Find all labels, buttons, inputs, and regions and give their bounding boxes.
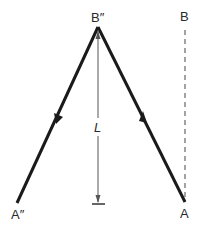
label-apex: B″	[91, 10, 105, 25]
label-length: L	[94, 120, 101, 135]
label-top-right: B	[180, 9, 189, 24]
arrow-bottom-icon	[96, 195, 101, 203]
diagram-canvas: B″ B A″ A L	[0, 0, 198, 227]
label-bottom-left: A″	[11, 207, 25, 222]
label-bottom-right: A	[180, 206, 189, 221]
leg-right	[98, 27, 185, 202]
